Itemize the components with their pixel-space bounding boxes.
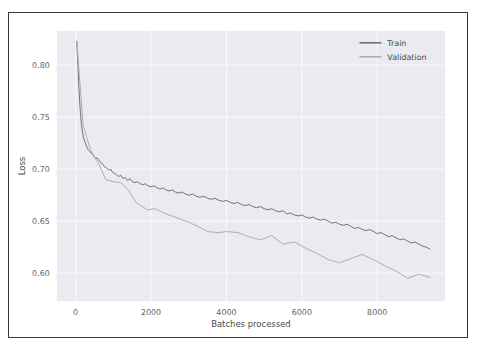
y-tick-label: 0.75 (32, 113, 50, 122)
y-axis-tick-labels: 0.600.650.700.750.80 (32, 61, 50, 278)
y-tick-label: 0.60 (32, 269, 50, 278)
x-tick-label: 8000 (367, 308, 387, 317)
x-axis-label: Batches processed (211, 319, 291, 329)
y-tick-label: 0.70 (32, 165, 50, 174)
y-tick-label: 0.65 (32, 217, 50, 226)
x-tick-label: 4000 (216, 308, 236, 317)
figure-frame: 0.600.650.700.750.80 02000400060008000 L… (8, 12, 468, 338)
plot-area-background (57, 31, 445, 301)
legend-label-train: Train (386, 39, 406, 48)
x-tick-label: 0 (73, 308, 78, 317)
y-tick-label: 0.80 (32, 61, 50, 70)
legend-label-validation: Validation (387, 53, 426, 62)
figure-canvas: 0.600.650.700.750.80 02000400060008000 L… (9, 13, 467, 337)
loss-curve-chart: 0.600.650.700.750.80 02000400060008000 L… (9, 13, 467, 337)
x-tick-label: 2000 (141, 308, 161, 317)
y-axis-label: Loss (17, 157, 27, 175)
x-tick-label: 6000 (292, 308, 312, 317)
x-axis-tick-labels: 02000400060008000 (73, 308, 387, 317)
